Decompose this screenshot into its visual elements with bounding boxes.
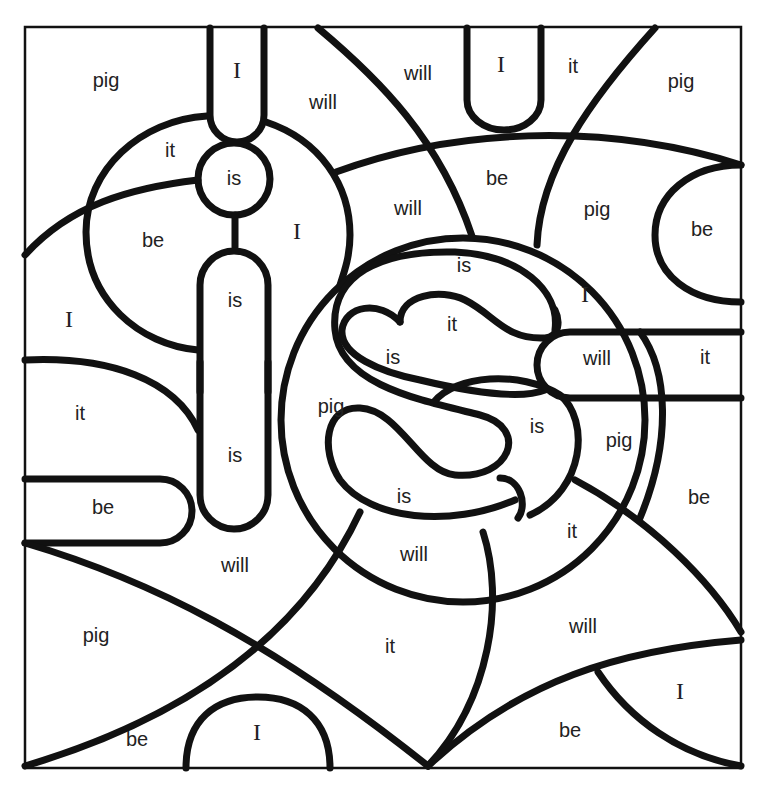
region-word-label: be: [126, 728, 148, 750]
region-word-label: I: [676, 678, 684, 704]
region-word-label: pig: [83, 624, 110, 646]
region-word-label: it: [75, 402, 85, 424]
region-word-label: pig: [318, 395, 345, 417]
region-outline: [467, 28, 541, 130]
region-word-label: is: [530, 415, 544, 437]
region-word-label: is: [227, 167, 241, 189]
region-outline: [25, 180, 198, 255]
region-word-label: it: [385, 635, 395, 657]
region-outline: [428, 640, 741, 766]
region-word-label: be: [691, 218, 713, 240]
region-word-label: be: [92, 496, 114, 518]
region-outline: [266, 122, 350, 285]
region-outline: [336, 136, 741, 172]
region-word-label: it: [447, 313, 457, 335]
region-word-label: is: [228, 444, 242, 466]
region-word-label: is: [397, 485, 411, 507]
region-word-label: it: [165, 139, 175, 161]
region-word-label: is: [228, 289, 242, 311]
region-word-label: will: [403, 62, 432, 84]
region-word-label: I: [497, 51, 505, 77]
region-outline: [200, 251, 268, 392]
region-word-label: I: [233, 57, 241, 83]
color-by-word-worksheet: pigIwillwillIitpigitisbewillpigbebeIisis…: [0, 0, 760, 786]
region-word-label: be: [486, 167, 508, 189]
region-word-label: pig: [93, 69, 120, 91]
region-outline: [25, 360, 198, 430]
region-outline: [598, 672, 741, 766]
region-outline: [428, 532, 493, 766]
region-outline: [210, 28, 264, 142]
region-word-label: be: [688, 486, 710, 508]
region-word-label: it: [568, 55, 578, 77]
region-word-label: be: [559, 719, 581, 741]
region-word-label: is: [457, 254, 471, 276]
region-word-label: I: [65, 306, 73, 332]
region-outline: [575, 480, 741, 632]
region-word-label: will: [393, 197, 422, 219]
region-word-label: is: [386, 346, 400, 368]
region-word-label: will: [399, 543, 428, 565]
region-word-label: will: [568, 615, 597, 637]
region-word-label: pig: [606, 429, 633, 451]
region-word-label: pig: [584, 198, 611, 220]
region-word-label: it: [700, 346, 710, 368]
region-word-label: will: [308, 91, 337, 113]
region-word-label: it: [567, 520, 577, 542]
region-word-label: I: [253, 719, 261, 745]
region-word-label: pig: [668, 70, 695, 92]
region-word-label: I: [581, 281, 589, 307]
outline-lines: [25, 28, 741, 768]
region-word-label: will: [220, 554, 249, 576]
region-word-label: I: [293, 218, 301, 244]
region-word-label: be: [142, 229, 164, 251]
region-word-label: will: [582, 347, 611, 369]
s-letter-outline: [400, 294, 558, 338]
